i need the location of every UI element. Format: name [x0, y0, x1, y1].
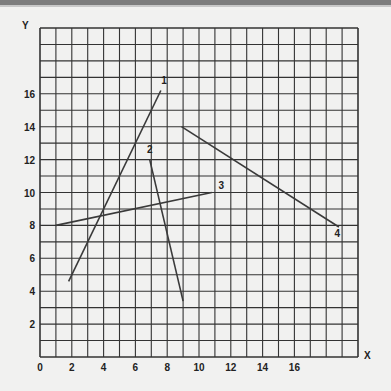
line-label-3: 3: [218, 180, 224, 191]
x-axis-label: X: [364, 350, 371, 361]
y-tick-label: 6: [29, 253, 35, 264]
x-tick-label: 16: [289, 362, 301, 373]
y-tick-label: 8: [29, 220, 35, 231]
x-tick-label: 6: [133, 362, 139, 373]
line-label-2: 2: [147, 144, 153, 155]
x-tick-label: 0: [37, 362, 43, 373]
line-2: [150, 160, 183, 301]
y-tick-label: 16: [24, 89, 36, 100]
y-axis-label: Y: [22, 20, 29, 31]
x-tick-label: 14: [257, 362, 269, 373]
y-tick-label: 2: [29, 319, 35, 330]
y-tick-label: 12: [24, 155, 36, 166]
x-tick-label: 10: [193, 362, 205, 373]
line-label-4: 4: [335, 228, 341, 239]
line-label-1: 1: [161, 75, 167, 86]
line-chart: 0246810121416246810121416 1234 Y X: [0, 0, 391, 391]
data-lines: 1234: [56, 75, 341, 301]
y-tick-label: 10: [24, 188, 36, 199]
x-tick-label: 2: [69, 362, 75, 373]
line-1: [69, 91, 161, 282]
y-tick-label: 14: [24, 122, 36, 133]
x-tick-label: 4: [101, 362, 107, 373]
line-4: [182, 127, 339, 227]
x-tick-label: 8: [164, 362, 170, 373]
y-tick-label: 4: [29, 286, 35, 297]
grid: [40, 28, 358, 357]
x-tick-label: 12: [225, 362, 237, 373]
tick-labels: 0246810121416246810121416: [24, 89, 301, 373]
